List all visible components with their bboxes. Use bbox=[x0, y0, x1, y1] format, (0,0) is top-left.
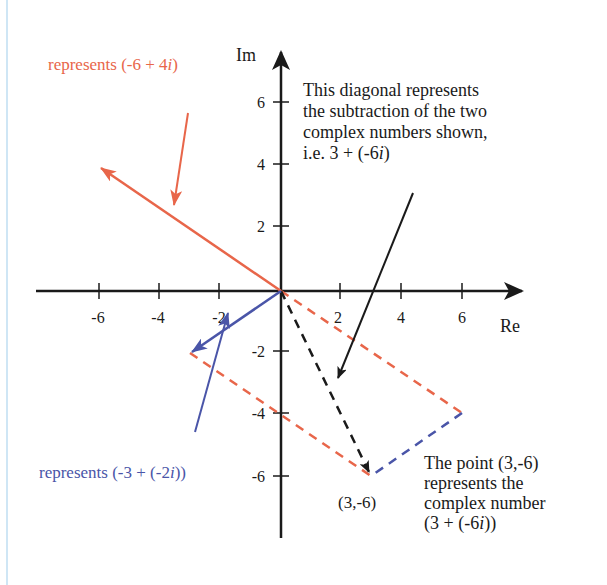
blue-label-text: represents (-3 + (-2 bbox=[39, 463, 170, 482]
note-close: )) bbox=[484, 513, 496, 533]
x-axis-label: Re bbox=[500, 316, 520, 336]
point-label: (3,-6) bbox=[338, 493, 376, 512]
blue-label-pointer-arrow bbox=[195, 313, 228, 432]
red-label-close: ) bbox=[172, 55, 178, 74]
note-line: complex numbers shown, bbox=[303, 122, 487, 143]
x-tick-label: 4 bbox=[397, 309, 405, 326]
blue-vector-label: represents (-3 + (-2i)) bbox=[39, 463, 186, 482]
x-tick-label: 6 bbox=[458, 309, 466, 326]
x-tick-label: 2 bbox=[334, 309, 342, 326]
note-line: (3 + (-6i)) bbox=[424, 513, 545, 533]
vector-blue bbox=[192, 291, 281, 352]
y-tick-label: -2 bbox=[252, 343, 265, 360]
y-tick-label: -6 bbox=[252, 468, 265, 485]
vector-red bbox=[101, 168, 281, 291]
parallelogram-edge-red-upper bbox=[281, 291, 462, 413]
note-text: i.e. 3 + (-6 bbox=[303, 143, 379, 163]
note-line: The point (3,-6) bbox=[424, 453, 545, 473]
x-tick-label: -4 bbox=[151, 309, 164, 326]
point-explanation-note: The point (3,-6) represents the complex … bbox=[424, 453, 545, 533]
diagonal-explanation-note: This diagonal represents the subtraction… bbox=[303, 80, 487, 164]
y-tick-label: -4 bbox=[252, 405, 265, 422]
note-line: i.e. 3 + (-6i) bbox=[303, 143, 487, 164]
blue-label-close: )) bbox=[175, 463, 186, 482]
x-tick-label: -6 bbox=[91, 309, 104, 326]
note-line: represents the bbox=[424, 473, 545, 493]
red-vector-label: represents (-6 + 4i) bbox=[48, 55, 178, 74]
red-label-pointer-arrow bbox=[174, 113, 188, 205]
red-label-text: represents (-6 + 4 bbox=[48, 55, 168, 74]
y-tick-label: 4 bbox=[257, 156, 265, 173]
note-line: This diagonal represents bbox=[303, 80, 487, 101]
y-tick-label: 6 bbox=[257, 94, 265, 111]
note-line: the subtraction of the two bbox=[303, 101, 487, 122]
note-text: (3 + (-6 bbox=[424, 513, 479, 533]
note-close: ) bbox=[384, 143, 390, 163]
y-axis-label: Im bbox=[236, 45, 256, 65]
x-tick-label: -2 bbox=[212, 309, 225, 326]
y-tick-label: 2 bbox=[257, 218, 265, 235]
note-line: complex number bbox=[424, 493, 545, 513]
